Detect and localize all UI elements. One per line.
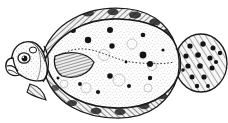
caudal-fin [175,34,227,92]
eye [18,53,30,63]
lateral-line-spot [147,61,153,67]
second-eye [29,47,36,53]
illustration-figure [0,0,228,123]
flatfish-illustration [0,0,228,123]
